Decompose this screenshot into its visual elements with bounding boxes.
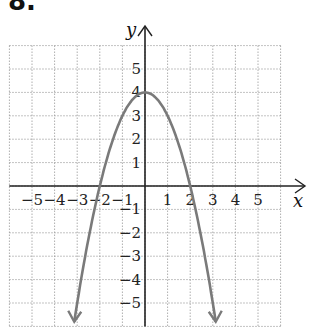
x-tick-label: 4 (231, 191, 241, 209)
x-tick-label: −3 (66, 191, 88, 209)
x-tick-label: 3 (208, 191, 218, 209)
y-tick-label: 1 (131, 154, 141, 172)
y-tick-label: 3 (131, 107, 141, 125)
x-tick-label: −2 (89, 191, 111, 209)
y-tick-label: −4 (119, 271, 141, 289)
x-axis-label: x (293, 190, 303, 211)
y-tick-label: −2 (119, 224, 141, 242)
x-tick-label: 1 (163, 191, 173, 209)
x-tick-label: −4 (44, 191, 66, 209)
y-tick-label: −1 (119, 200, 141, 218)
y-tick-label: −3 (119, 247, 141, 265)
y-tick-label: 2 (131, 130, 141, 148)
x-tick-label: −5 (21, 191, 43, 209)
x-tick-label: 5 (253, 191, 263, 209)
y-tick-label: −5 (119, 294, 141, 312)
y-tick-label: 5 (131, 60, 141, 78)
y-axis-label: y (125, 19, 137, 40)
parabola-chart: xy−5−4−3−2−11234554321−1−2−3−4−5 (0, 0, 315, 333)
